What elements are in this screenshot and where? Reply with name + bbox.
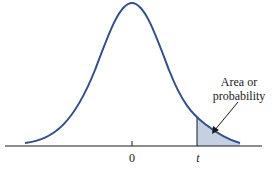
t-label: t	[193, 151, 203, 166]
area-label-line2: probability	[206, 89, 272, 103]
density-curve	[25, 3, 240, 143]
zero-label: 0	[127, 151, 137, 166]
area-label-line1: Area or	[206, 75, 272, 89]
annotation-arrow	[214, 102, 238, 131]
area-annotation-label: Area or probability	[206, 75, 272, 103]
